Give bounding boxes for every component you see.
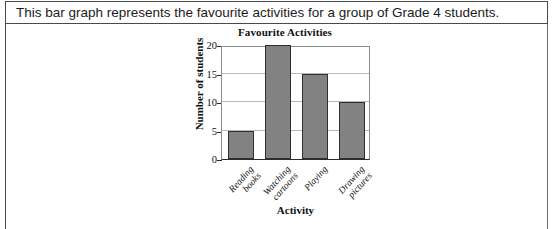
y-axis-tick-label: 10	[195, 97, 217, 108]
bar	[339, 102, 365, 159]
question-prompt-text: This bar graph represents the favourite …	[16, 4, 499, 22]
bar	[265, 45, 291, 159]
y-axis-tick-label: 0	[195, 154, 217, 165]
bar-chart-figure: Favourite Activities Number of students …	[180, 26, 390, 226]
y-axis-tick-label: 20	[195, 40, 217, 51]
plot-area	[221, 46, 370, 160]
y-axis-tick-label: 15	[195, 69, 217, 80]
question-prompt-box: This bar graph represents the favourite …	[5, 1, 548, 24]
bar-series	[222, 47, 369, 159]
y-axis-tick-label: 5	[195, 126, 217, 137]
bar	[228, 131, 254, 160]
bar	[302, 74, 328, 160]
x-axis-title: Activity	[221, 204, 370, 216]
y-axis-tick-labels: 05101520	[193, 26, 217, 186]
